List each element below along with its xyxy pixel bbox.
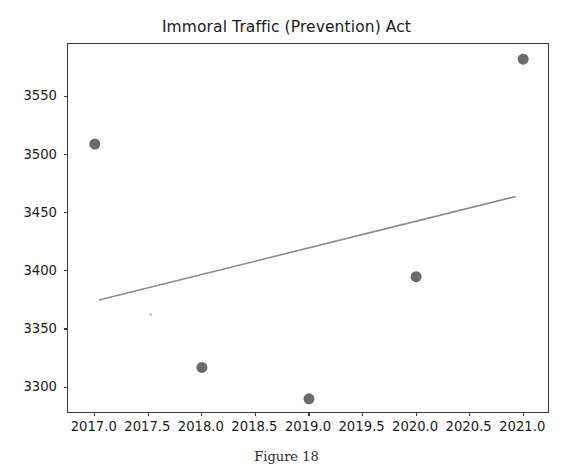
y-tick-mark [64, 387, 68, 388]
x-tick-mark [94, 412, 95, 416]
y-tick-mark [64, 96, 68, 97]
x-tick-label: 2020.5 [446, 419, 492, 434]
y-tick-label: 3450 [23, 204, 57, 219]
x-tick-mark [308, 412, 309, 416]
x-tick-label: 2020.0 [392, 419, 438, 434]
x-tick-label: 2021.0 [499, 419, 545, 434]
data-point [196, 362, 207, 373]
y-tick-label: 3300 [23, 379, 57, 394]
y-tick-label: 3500 [23, 146, 57, 161]
x-tick-label: 2018.0 [178, 419, 224, 434]
x-tick-mark [416, 412, 417, 416]
scatter-markers-group [89, 54, 528, 405]
y-tick-label: 3400 [23, 262, 57, 277]
x-tick-mark [201, 412, 202, 416]
x-tick-mark [523, 412, 524, 416]
trendline-group [99, 196, 516, 300]
x-tick-label: 2019.5 [338, 419, 384, 434]
trendline [99, 196, 516, 300]
y-tick-mark [64, 212, 68, 213]
y-tick-mark [64, 270, 68, 271]
data-point [411, 271, 422, 282]
x-tick-mark [362, 412, 363, 416]
x-tick-mark [255, 412, 256, 416]
y-tick-mark [64, 328, 68, 329]
figure-container: Immoral Traffic (Prevention) Act 2017.02… [0, 0, 573, 471]
scan-artifact-speck [149, 313, 152, 316]
data-point [518, 54, 529, 65]
data-point [304, 393, 315, 404]
x-tick-label: 2018.5 [231, 419, 277, 434]
x-tick-label: 2017.5 [124, 419, 170, 434]
x-tick-mark [469, 412, 470, 416]
y-tick-mark [64, 154, 68, 155]
chart-title: Immoral Traffic (Prevention) Act [0, 18, 573, 36]
data-point [89, 139, 100, 150]
figure-caption: Figure 18 [0, 449, 573, 464]
y-tick-label: 3550 [23, 88, 57, 103]
y-tick-label: 3350 [23, 321, 57, 336]
x-tick-label: 2017.0 [71, 419, 117, 434]
x-tick-label: 2019.0 [285, 419, 331, 434]
plot-canvas [68, 44, 550, 414]
plot-area [67, 43, 549, 413]
x-tick-mark [148, 412, 149, 416]
